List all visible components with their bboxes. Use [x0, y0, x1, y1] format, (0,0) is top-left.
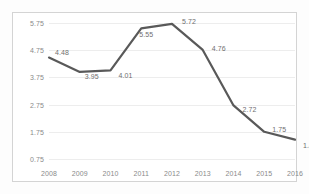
- data-point-label: 5.55: [139, 31, 153, 38]
- x-axis-tick-label: 2011: [134, 170, 149, 177]
- x-axis-tick-label: 2015: [256, 170, 272, 177]
- x-axis-tick-label: 2009: [72, 170, 88, 177]
- data-point-label: 2.72: [242, 106, 256, 113]
- data-point-label: 1.75: [272, 125, 286, 132]
- y-axis-tick-label: 5.75: [30, 20, 44, 27]
- y-axis-tick-label: 4.75: [30, 47, 44, 54]
- y-axis-tick-label: 3.75: [30, 74, 44, 81]
- data-point-label: 1.46: [303, 141, 309, 148]
- data-point-label: 3.95: [85, 72, 99, 79]
- x-axis-tick-label: 2012: [164, 170, 180, 177]
- line-chart: 0.751.752.753.754.755.75 200820092010201…: [0, 0, 309, 194]
- x-axis-tick-label: 2016: [287, 170, 303, 177]
- data-point-label: 5.72: [182, 17, 196, 24]
- data-point-label: 4.01: [118, 72, 132, 79]
- gridline: [49, 159, 295, 160]
- series-line: [49, 23, 295, 159]
- y-axis-tick-label: 0.75: [30, 156, 44, 163]
- x-axis-tick-label: 2013: [195, 170, 211, 177]
- x-axis-tick-label: 2010: [103, 170, 119, 177]
- data-point-label: 4.48: [55, 48, 69, 55]
- data-point-label: 4.76: [212, 44, 226, 51]
- series-polyline: [49, 24, 295, 140]
- plot-area: 0.751.752.753.754.755.75 200820092010201…: [49, 23, 295, 159]
- y-axis-tick-label: 1.75: [30, 128, 44, 135]
- x-axis-tick-label: 2008: [41, 170, 57, 177]
- chart-plot-frame: 0.751.752.753.754.755.75 200820092010201…: [12, 12, 297, 182]
- y-axis-tick-label: 2.75: [30, 101, 44, 108]
- x-axis-tick-label: 2014: [226, 170, 242, 177]
